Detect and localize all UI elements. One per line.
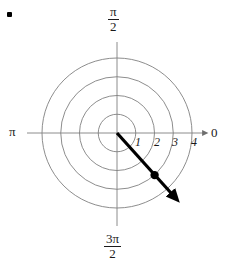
- angle-label-3pi-over-2: 3π 2: [104, 232, 121, 260]
- radial-tick-label-3: 3: [172, 136, 178, 148]
- angle-label-3pi-over-2-numerator: 3π: [104, 232, 121, 247]
- angle-label-3pi-over-2-denominator: 2: [104, 247, 121, 261]
- angle-label-pi-over-2: π 2: [108, 5, 119, 33]
- radial-tick-label-2: 2: [154, 136, 160, 148]
- angle-label-pi-over-2-numerator: π: [108, 5, 119, 20]
- angle-label-pi-over-2-denominator: 2: [108, 20, 119, 34]
- radial-tick-label-4: 4: [191, 136, 197, 148]
- plotted-point-marker: [150, 171, 158, 179]
- angle-label-pi: π: [9, 125, 16, 138]
- angle-label-zero: 0: [211, 126, 218, 139]
- plotted-ray: [117, 133, 172, 194]
- polar-plot-figure: 0 π π 2 3π 2 1 2 3 4: [0, 0, 231, 270]
- radial-tick-label-1: 1: [135, 136, 141, 148]
